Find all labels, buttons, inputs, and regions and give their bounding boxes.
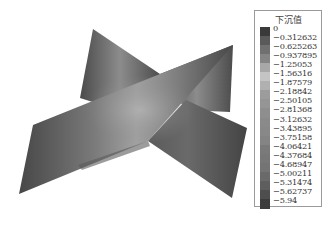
legend-title: 下沉值: [255, 13, 321, 26]
legend-swatch: [260, 199, 270, 209]
contour-3d-plot: [0, 0, 250, 229]
legend-label: −5.94: [273, 195, 297, 205]
intersecting-planes-surface: [0, 0, 250, 229]
legend-entry: −5.94: [260, 199, 320, 209]
color-legend: 下沉值 0−0.312632−0.625263−0.937895−1.25053…: [254, 10, 322, 207]
